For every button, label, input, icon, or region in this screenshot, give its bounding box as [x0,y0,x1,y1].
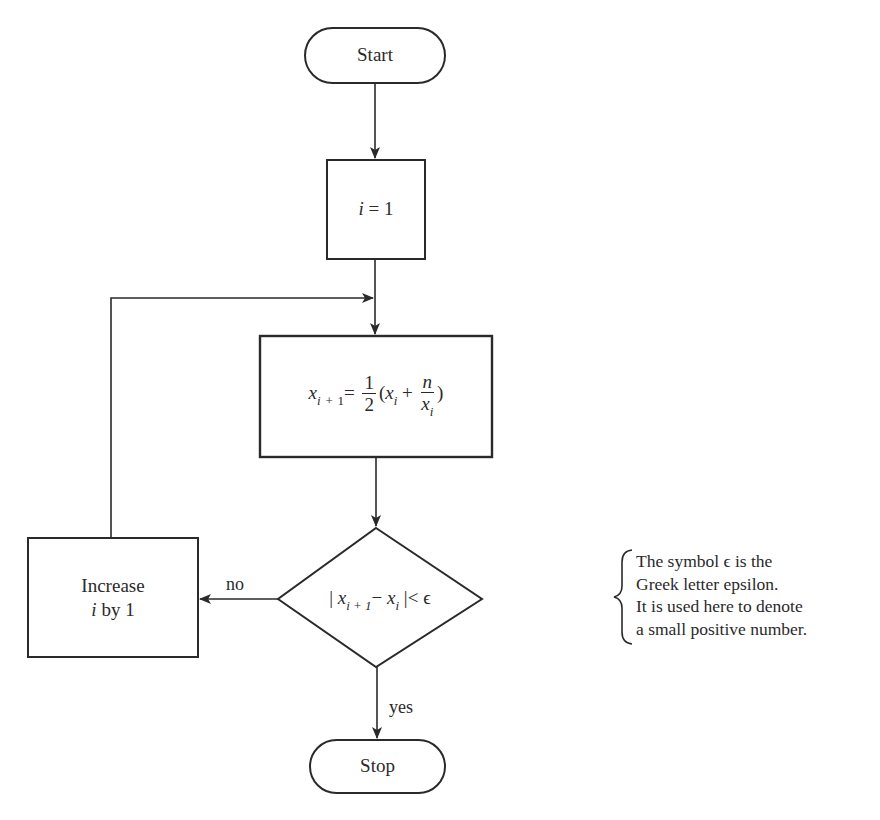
half-fraction: 12 [362,373,376,416]
lhs-sub-plus: + [325,393,332,408]
test-condition: | xi + 1− xi |< ϵ [278,586,482,612]
edge-label-yes: yes [389,697,413,718]
half-num: 1 [362,373,376,394]
epsilon-note: The symbol ϵ is the Greek letter epsilon… [636,550,807,640]
paren-close: ) [437,382,443,403]
abs-bar-open: | [329,587,333,608]
increment-line2: i by 1 [28,598,198,622]
x1-sub: i + 1 [346,598,371,613]
half-den: 2 [362,394,376,416]
n-over-xi-fraction: nxi [421,372,435,417]
lhs-sub-i: i [317,393,321,408]
note-line-3: It is used here to denote [636,595,807,618]
less-than: < [408,587,419,608]
start-text: Start [357,44,393,65]
note-line-1: The symbol ϵ is the [636,550,807,573]
start-label: Start [305,43,445,67]
increment-line1: Increase [28,574,198,598]
init-val: 1 [384,198,394,219]
init-var: i [359,198,364,219]
equals-sign: = [344,382,355,403]
increment-label: Increase i by 1 [28,574,198,622]
lhs-var: x [309,382,317,403]
note-line-4: a small positive number. [636,618,807,641]
plus-sign: + [402,382,413,403]
inner-num: n [421,372,435,393]
stop-label: Stop [310,754,445,778]
xi-sub: i [394,393,398,408]
x2-sub: i [395,598,399,613]
inner-den-sub: i [430,404,434,419]
x1-var: x [338,587,346,608]
inner-den-var: x [421,393,429,414]
init-op: = [369,198,380,219]
stop-text: Stop [360,755,395,776]
minus-sign: − [372,587,383,608]
init-label: i = 1 [327,197,425,221]
epsilon: ϵ [423,587,431,608]
lhs-sub-one: 1 [338,393,345,408]
note-line-2: Greek letter epsilon. [636,573,807,596]
edge-label-no: no [226,574,244,595]
update-equation: xi + 1= 12(xi + nxi) [260,370,492,418]
xi-var: x [385,382,393,403]
note-brace [614,550,632,644]
edge-increment-to-update [111,298,373,538]
increment-rest: by 1 [97,599,135,620]
